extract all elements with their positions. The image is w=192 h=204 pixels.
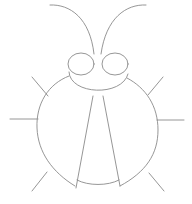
leg-back-left <box>32 172 47 191</box>
wing-bottom-gap <box>77 180 119 185</box>
eye-right <box>102 53 128 75</box>
antenna-right <box>101 5 146 54</box>
wing-right <box>103 96 120 186</box>
beetle-drawing-canvas <box>0 0 192 204</box>
eye-left <box>68 53 94 75</box>
beetle-illustration <box>0 0 192 204</box>
wing-left <box>76 96 93 188</box>
body-left <box>37 76 75 186</box>
leg-front-right <box>148 77 163 95</box>
leg-back-right <box>149 173 164 191</box>
leg-front-left <box>32 77 48 96</box>
body-right <box>120 78 158 186</box>
antenna-left <box>50 5 94 54</box>
